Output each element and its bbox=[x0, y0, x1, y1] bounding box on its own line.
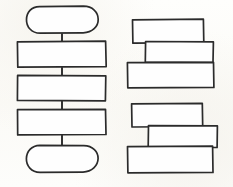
diagram-canvas bbox=[0, 0, 233, 187]
flowchart-node-step-3[interactable] bbox=[16, 108, 108, 137]
flowchart-node-end[interactable] bbox=[25, 144, 100, 174]
flowchart-node-step-2[interactable] bbox=[16, 74, 108, 103]
diagram-vector-layer bbox=[0, 0, 233, 187]
flowchart-node-start[interactable] bbox=[25, 5, 100, 35]
upper-block-3[interactable] bbox=[126, 61, 216, 90]
flowchart-node-step-1[interactable] bbox=[16, 40, 108, 69]
lower-block-3[interactable] bbox=[126, 145, 215, 175]
